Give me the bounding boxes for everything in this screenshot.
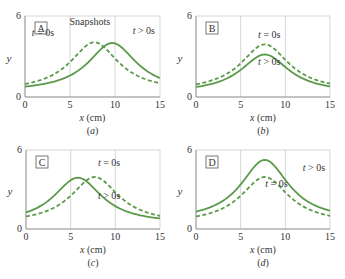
curve-label: t = 0s <box>32 27 54 38</box>
y-tick-label: 6 <box>187 10 192 21</box>
panel-d: 60y051015x (cm)(d)Dt > 0st = 0s <box>177 144 335 269</box>
curve-t-greater-0 <box>26 178 160 219</box>
curve-label: t > 0s <box>258 56 280 67</box>
y-axis-label: y <box>177 185 183 197</box>
y-axis-label: y <box>7 185 13 197</box>
y-tick-label: 6 <box>17 144 22 155</box>
x-axis-label: x (cm) <box>79 244 106 256</box>
x-tick-label: 5 <box>68 99 73 110</box>
x-tick-label: 5 <box>238 99 243 110</box>
y-tick-label: 6 <box>187 144 192 155</box>
x-axis-label: x (cm) <box>249 244 276 256</box>
y-axis-label: y <box>177 52 183 64</box>
x-tick-label: 5 <box>68 231 73 242</box>
wave-snapshots-figure: 60y051015x (cm)(a)ASnapshotst = 0st > 0s… <box>0 0 345 279</box>
x-tick-label: 10 <box>280 99 290 110</box>
y-tick-label: 0 <box>187 91 192 102</box>
panel-caption: (d) <box>257 257 269 269</box>
panel-letter: C <box>39 157 46 168</box>
curve-label: t > 0s <box>303 162 325 173</box>
x-tick-label: 0 <box>194 99 199 110</box>
curve-label: t = 0s <box>258 29 280 40</box>
y-tick-label: 0 <box>17 223 22 234</box>
x-axis-label: x (cm) <box>249 112 276 124</box>
panel-caption: (b) <box>257 125 269 137</box>
curve-t-equals-0 <box>26 177 160 216</box>
panel-caption: (c) <box>87 257 98 269</box>
x-tick-label: 10 <box>110 231 120 242</box>
x-axis-label: x (cm) <box>79 112 106 124</box>
x-tick-label: 15 <box>325 99 335 110</box>
x-tick-label: 10 <box>110 99 120 110</box>
panel-letter: D <box>208 157 215 168</box>
panel-a: 60y051015x (cm)(a)ASnapshotst = 0st > 0s <box>6 10 165 137</box>
x-tick-label: 10 <box>280 231 290 242</box>
x-tick-label: 0 <box>194 231 199 242</box>
x-tick-label: 0 <box>23 99 28 110</box>
curve-label: t = 0s <box>265 178 287 189</box>
curve-label: t = 0s <box>98 157 120 168</box>
curve-label: t > 0s <box>133 25 155 36</box>
curve-label: t > 0s <box>98 190 120 201</box>
figure-title: Snapshots <box>70 16 111 27</box>
panel-b: 60y051015x (cm)(b)Bt = 0st > 0s <box>177 10 335 137</box>
x-tick-label: 0 <box>24 231 29 242</box>
y-tick-label: 0 <box>187 223 192 234</box>
panel-letter: B <box>209 23 216 34</box>
curve-t-equals-0 <box>196 177 330 216</box>
x-tick-label: 15 <box>325 231 335 242</box>
panel-c: 60y051015x (cm)(c)Ct = 0st > 0s <box>7 144 165 269</box>
panel-caption: (a) <box>87 125 99 137</box>
curve-t-equals-0 <box>25 42 160 84</box>
y-tick-label: 0 <box>16 91 21 102</box>
x-tick-label: 15 <box>155 231 165 242</box>
curve-t-greater-0 <box>25 43 160 87</box>
x-tick-label: 5 <box>238 231 243 242</box>
y-axis-label: y <box>6 52 12 64</box>
x-tick-label: 15 <box>155 99 165 110</box>
y-tick-label: 6 <box>16 10 21 21</box>
